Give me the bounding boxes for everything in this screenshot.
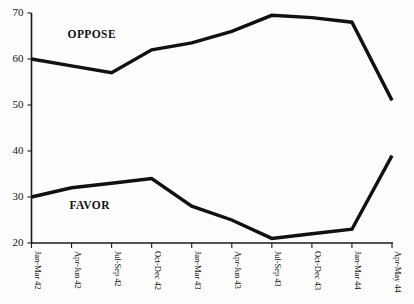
x-tick-label: Apr-Jun 42 — [73, 251, 83, 289]
y-tick-label: 20 — [13, 236, 25, 248]
series-label-oppose: OPPOSE — [68, 28, 116, 40]
y-tick-label: 70 — [13, 6, 25, 18]
x-tick-label: Apr-May 44 — [393, 251, 403, 293]
x-tick-label: Apr-Jun 43 — [233, 251, 243, 289]
x-tick-label: Jan-Mar 42 — [33, 251, 43, 289]
x-tick-label: Jan-Mar 44 — [353, 251, 363, 290]
y-tick-label: 30 — [13, 190, 25, 202]
series-line-favor — [32, 156, 393, 239]
x-tick-label: Jul-Sep 43 — [273, 251, 283, 287]
y-tick-label: 60 — [13, 52, 25, 64]
line-chart: 203040506070 Jan-Mar 42Apr-Jun 42Jul-Sep… — [0, 0, 414, 304]
x-axis: Jan-Mar 42Apr-Jun 42Jul-Sep 42Oct-Dec 42… — [32, 243, 404, 293]
y-tick-label: 50 — [13, 98, 25, 110]
series-label-favor: FAVOR — [70, 199, 111, 211]
x-tick-label: Oct-Dec 43 — [313, 251, 323, 290]
x-tick-label: Jan-Mar 43 — [193, 251, 203, 289]
y-tick-label: 40 — [13, 144, 25, 156]
y-axis: 203040506070 — [13, 6, 32, 248]
x-tick-label: Jul-Sep 42 — [113, 251, 123, 287]
x-tick-label: Oct-Dec 42 — [153, 251, 163, 290]
chart-canvas: 203040506070 Jan-Mar 42Apr-Jun 42Jul-Sep… — [0, 0, 414, 304]
